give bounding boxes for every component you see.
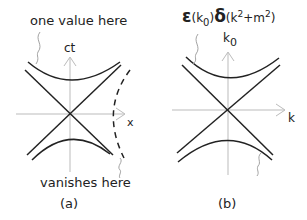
formula-arrow-icon bbox=[193, 34, 198, 64]
lower-hyperbola bbox=[32, 139, 110, 160]
annotation-vanishes-here: vanishes here bbox=[40, 175, 131, 190]
caption-b: (b) bbox=[218, 196, 236, 211]
caption-a: (a) bbox=[60, 196, 78, 211]
diagram-canvas: one value here vanishes here ct x (a) ε(… bbox=[0, 0, 307, 220]
panel-b: ε(k0)δ(k2+m2) k0 k (b) bbox=[172, 6, 295, 211]
formula-epsilon-delta: ε(k0)δ(k2+m2) bbox=[182, 6, 275, 28]
upper-hyperbola bbox=[186, 57, 279, 78]
light-cone-line-2 bbox=[27, 65, 121, 155]
x-axis-label: x bbox=[127, 116, 134, 129]
annotation-arrow-top-icon bbox=[36, 32, 40, 64]
panel-a: one value here vanishes here ct x (a) bbox=[16, 13, 134, 211]
k-axis-label: k bbox=[288, 111, 295, 125]
ct-axis-label: ct bbox=[64, 41, 76, 55]
annotation-one-value-here: one value here bbox=[30, 13, 127, 28]
k0-axis-label: k0 bbox=[223, 31, 237, 49]
lower-hyperbola bbox=[178, 140, 272, 162]
upper-hyperbola bbox=[28, 62, 120, 80]
light-cone-line-1 bbox=[25, 70, 113, 155]
lower-branch-arrow-icon bbox=[257, 153, 261, 176]
